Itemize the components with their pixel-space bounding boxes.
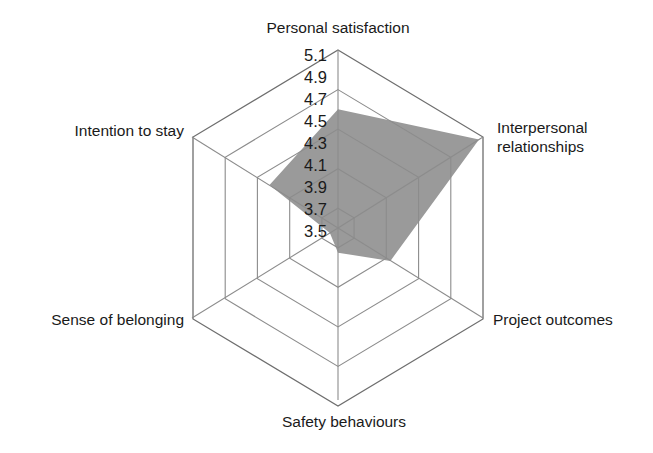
data-series-polygon bbox=[270, 109, 480, 261]
spoke-sense-of-belonging bbox=[192, 228, 338, 318]
axis-label-project-outcomes: Project outcomes bbox=[493, 311, 613, 328]
tick-label-3-9: 3.9 bbox=[304, 178, 327, 196]
axis-label-intention-to-stay: Intention to stay bbox=[75, 122, 185, 139]
axis-label-interpersonal-relationships-line2: relationships bbox=[497, 138, 584, 155]
tick-label-3-5: 3.5 bbox=[304, 222, 327, 240]
axis-label-sense-of-belonging: Sense of belonging bbox=[51, 311, 184, 328]
tick-label-5-1: 5.1 bbox=[304, 46, 327, 64]
tick-label-3-7: 3.7 bbox=[304, 200, 327, 218]
radar-chart-svg: 5.1 4.9 4.7 4.5 4.3 4.1 3.9 3.7 3.5 Pers… bbox=[0, 0, 653, 453]
axis-label-safety-behaviours: Safety behaviours bbox=[282, 413, 406, 430]
tick-label-4-1: 4.1 bbox=[304, 156, 327, 174]
axis-label-interpersonal-relationships-line1: Interpersonal bbox=[497, 119, 587, 136]
spoke-project-outcomes bbox=[338, 228, 483, 318]
tick-label-4-7: 4.7 bbox=[304, 90, 327, 108]
tick-label-4-5: 4.5 bbox=[304, 112, 327, 130]
tick-label-4-3: 4.3 bbox=[304, 134, 327, 152]
tick-label-4-9: 4.9 bbox=[304, 68, 327, 86]
radar-chart-figure: 5.1 4.9 4.7 4.5 4.3 4.1 3.9 3.7 3.5 Pers… bbox=[0, 0, 653, 453]
axis-label-personal-satisfaction: Personal satisfaction bbox=[266, 19, 409, 36]
